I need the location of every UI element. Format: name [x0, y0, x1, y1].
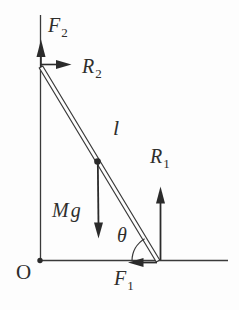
label-f1-base: F	[114, 267, 126, 289]
f2-arrowhead-up	[37, 40, 46, 58]
diagram-canvas	[0, 0, 239, 310]
label-length-base: l	[113, 115, 119, 140]
label-mg: Mg	[52, 200, 83, 220]
r2-arrow	[41, 60, 72, 69]
label-origin-base: O	[16, 260, 31, 284]
label-r1-base: R	[150, 145, 162, 167]
label-f2: F2	[48, 15, 67, 35]
label-f1-sub: 1	[127, 278, 134, 293]
label-f2-sub: 2	[61, 25, 68, 40]
label-ladder-length: l	[113, 117, 119, 139]
label-r1-sub: 1	[163, 156, 170, 171]
f2-arrow	[37, 40, 46, 68]
label-r2-sub: 2	[95, 66, 102, 81]
f1-arrowhead-left	[128, 258, 144, 267]
r1-arrowhead-up	[156, 187, 165, 204]
mg-arrowhead-down	[94, 223, 103, 239]
label-r1: R1	[150, 146, 169, 166]
label-f2-base: F	[48, 14, 60, 36]
origin-dot	[37, 258, 42, 263]
label-f1: F1	[114, 268, 133, 288]
label-r2: R2	[82, 56, 101, 76]
r1-arrow	[156, 187, 165, 261]
label-theta-base: θ	[117, 224, 127, 246]
ladder-diagram: F2 R2 l R1 Mg θ F1 O	[0, 0, 239, 310]
label-r2-base: R	[82, 55, 94, 77]
r2-arrowhead-right	[56, 60, 72, 69]
label-origin: O	[16, 262, 31, 283]
label-theta: θ	[117, 225, 127, 245]
angle-arc	[132, 239, 145, 261]
label-mg-base: Mg	[52, 199, 83, 221]
